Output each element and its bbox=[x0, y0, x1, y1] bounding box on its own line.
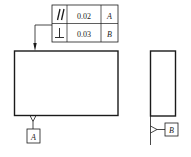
datum-triangle-icon bbox=[151, 126, 158, 133]
parallelism-icon bbox=[58, 9, 65, 20]
datum-b-symbol: B bbox=[151, 123, 179, 136]
front-view-part bbox=[15, 51, 119, 116]
tolerance-value-1: 0.02 bbox=[77, 12, 91, 21]
datum-ref-2: B bbox=[107, 30, 112, 39]
arrowhead-icon bbox=[33, 43, 36, 51]
side-view-part bbox=[151, 51, 176, 116]
datum-b-label: B bbox=[169, 126, 174, 135]
datum-a-label: A bbox=[30, 133, 36, 142]
datum-triangle-icon bbox=[30, 116, 36, 122]
tolerance-value-2: 0.03 bbox=[77, 30, 91, 39]
datum-a-symbol: A bbox=[27, 116, 40, 144]
perpendicularity-icon bbox=[55, 28, 64, 38]
feature-control-frame: 0.02 A 0.03 B bbox=[52, 5, 118, 42]
gdt-drawing: 0.02 A 0.03 B A B bbox=[0, 0, 191, 157]
leader-arrow bbox=[33, 25, 52, 51]
datum-ref-1: A bbox=[106, 12, 112, 21]
